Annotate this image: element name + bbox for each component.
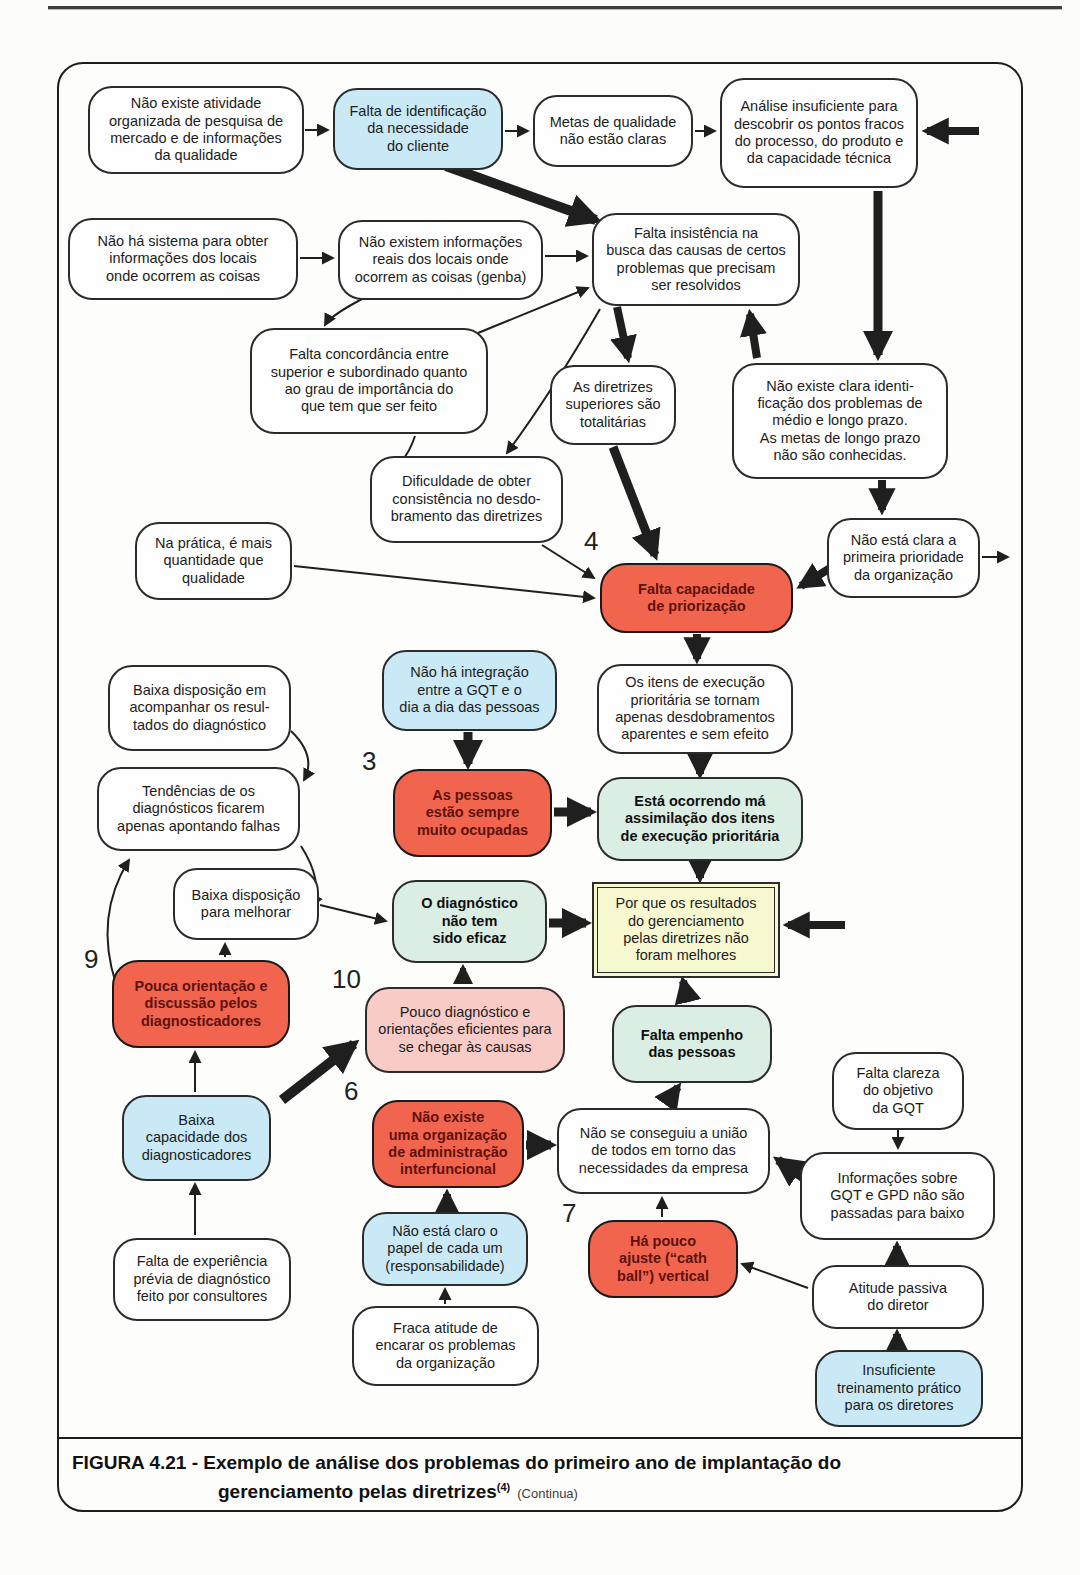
thick-arrow (613, 447, 655, 555)
node-falta-insistencia-busca-causas: Falta insistência na busca das causas de… (592, 213, 800, 306)
thick-arrow (446, 166, 596, 220)
node-falta-experiencia-previa-diagnostico: Falta de experiência prévia de diagnósti… (113, 1238, 291, 1321)
arrow (320, 905, 386, 921)
node-primeira-prioridade-nao-clara: Não está clara a primeira prioridade da … (827, 518, 980, 598)
arrow (291, 731, 308, 780)
node-baixa-disposicao-melhorar: Baixa disposição para melhorar (173, 868, 319, 940)
thick-arrow (750, 314, 757, 358)
node-diagnosticos-apontando-falhas: Tendências de os diagnósticos ficarem ap… (97, 767, 300, 851)
node-diagnostico-nao-eficaz: O diagnóstico não tem sido eficaz (392, 880, 547, 963)
node-sem-pesquisa-de-mercado: Não existe atividade organizada de pesqu… (88, 86, 304, 174)
node-falta-concordancia-superior-subordinado: Falta concordância entre superior e subo… (250, 328, 488, 434)
footnote-reference: (4) (497, 1481, 510, 1493)
thick-arrow (617, 307, 628, 358)
number-label-3: 3 (362, 746, 376, 777)
node-ma-assimilacao-itens-prioritarios: Está ocorrendo má assimilação dos itens … (597, 777, 803, 861)
node-analise-insuficiente-pontos-fracos: Análise insuficiente para descobrir os p… (720, 78, 918, 188)
thick-arrow (666, 1087, 678, 1104)
node-itens-execucao-desdobramentos-aparentes: Os itens de execução prioritária se torn… (597, 664, 793, 754)
node-pouco-diagnostico-eficiente: Pouco diagnóstico e orientações eficient… (365, 987, 565, 1073)
number-label-6: 6 (344, 1076, 358, 1107)
node-fraca-atitude-encarar-problemas: Fraca atitude de encarar os problemas da… (352, 1306, 539, 1386)
node-pouca-orientacao-diagnosticadores: Pouca orientação e discussão pelos diagn… (112, 960, 290, 1048)
figure-caption: FIGURA 4.21 - Exemplo de análise dos pro… (72, 1448, 1002, 1507)
node-sem-identificacao-problemas-longo-prazo: Não existe clara identi- ficação dos pro… (732, 363, 948, 479)
caption-divider (57, 1437, 1023, 1439)
thick-arrow (683, 981, 688, 1002)
arrow (294, 566, 594, 598)
node-dificuldade-consistencia-desdobramento: Dificuldade de obter consistência no des… (370, 456, 563, 543)
number-label-10: 10 (332, 964, 361, 995)
node-atitude-passiva-diretor: Atitude passiva do diretor (812, 1265, 984, 1329)
figure-caption-line2: gerenciamento pelas diretrizes(4)(Contin… (218, 1477, 1002, 1506)
node-falta-clareza-objetivo-gqt: Falta clareza do objetivo da GQT (832, 1052, 964, 1130)
node-sem-uniao-necessidades-empresa: Não se conseguiu a união de todos em tor… (557, 1108, 770, 1194)
node-falta-capacidade-priorizacao: Falta capacidade de priorização (600, 563, 793, 633)
node-informacoes-gqt-gpd-nao-passadas: Informações sobre GQT e GPD não são pass… (800, 1152, 995, 1240)
arrow (742, 1264, 808, 1288)
figure-caption-label: FIGURA 4.21 - (72, 1452, 198, 1473)
node-sem-integracao-gqt-dia-a-dia: Não há integração entre a GQT e o dia a … (382, 650, 557, 731)
node-diretrizes-superiores-totalitarias: As diretrizes superiores são totalitária… (550, 365, 676, 445)
node-baixa-disposicao-acompanhar-resultados: Baixa disposição em acompanhar os resul-… (108, 665, 291, 751)
node-papel-de-cada-um-nao-claro: Não está claro o papel de cada um (respo… (362, 1212, 528, 1286)
figure-caption-line1: Exemplo de análise dos problemas do prim… (203, 1452, 841, 1473)
node-sem-informacoes-reais-genba: Não existem informações reais dos locais… (338, 220, 543, 300)
node-sem-organizacao-interfuncional: Não existe uma organização de administra… (372, 1100, 524, 1188)
node-pessoas-sempre-ocupadas: As pessoas estão sempre muito ocupadas (393, 769, 552, 857)
node-insuficiente-treinamento-diretores: Insuficiente treinamento prático para os… (815, 1350, 983, 1427)
number-label-4: 4 (584, 526, 598, 557)
node-metas-qualidade-nao-claras: Metas de qualidade não estão claras (533, 95, 693, 167)
node-resultados-gpd-nao-melhores: Por que os resultados do gerenciamento p… (592, 882, 780, 978)
node-baixa-capacidade-diagnosticadores: Baixa capacidade dos diagnosticadores (122, 1095, 271, 1181)
node-sem-sistema-informacoes-locais: Não há sistema para obter informações do… (68, 218, 298, 300)
arrow (325, 299, 362, 325)
continua-note: (Continua) (517, 1486, 578, 1501)
node-mais-quantidade-que-qualidade: Na prática, é mais quantidade que qualid… (135, 522, 292, 600)
node-falta-empenho-pessoas: Falta empenho das pessoas (612, 1005, 772, 1083)
node-pouco-ajuste-catch-ball-vertical: Há pouco ajuste (“cath ball”) vertical (588, 1220, 738, 1298)
node-falta-identificacao-necessidade-cliente: Falta de identificação da necessidade do… (333, 88, 503, 170)
number-label-7: 7 (562, 1198, 576, 1229)
number-label-9: 9 (84, 944, 98, 975)
